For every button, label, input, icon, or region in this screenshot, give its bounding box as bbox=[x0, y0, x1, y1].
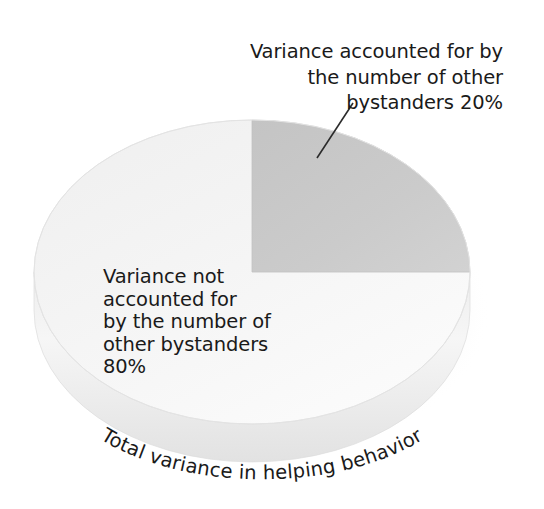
pie-slice-accounted[interactable] bbox=[252, 120, 470, 272]
pie-chart-figure: Total variance in helping behavior Varia… bbox=[0, 0, 544, 509]
callout-accounted-for: Variance accounted for by the number of … bbox=[203, 39, 503, 116]
callout-not-accounted-for: Variance not accounted for by the number… bbox=[103, 266, 323, 379]
